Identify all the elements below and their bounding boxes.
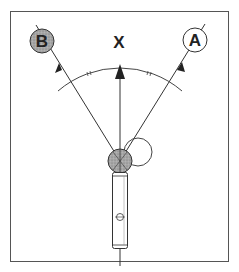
label-x: X: [113, 33, 125, 52]
point-a: A: [183, 28, 207, 52]
label-b: B: [36, 32, 48, 51]
label-a: A: [189, 31, 201, 50]
diagram-canvas: B A X: [0, 0, 239, 272]
rod-body: [113, 173, 128, 249]
point-b: B: [30, 29, 54, 53]
